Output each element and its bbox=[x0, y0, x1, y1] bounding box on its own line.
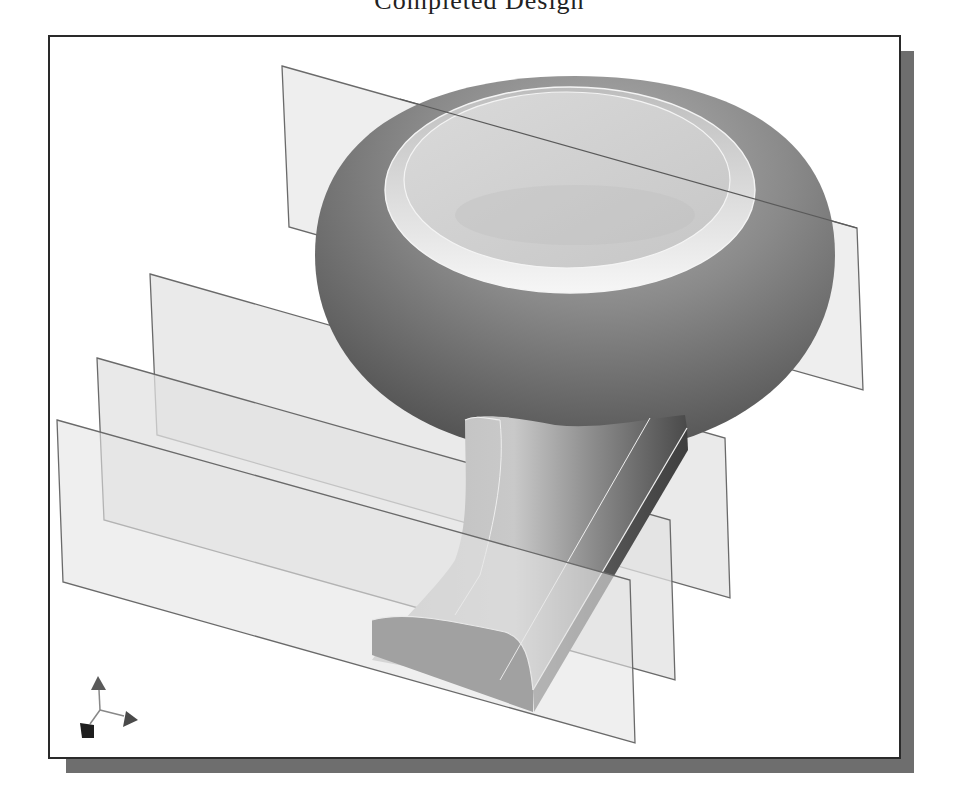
x-axis-icon bbox=[123, 711, 138, 727]
model-viewport[interactable] bbox=[48, 35, 901, 759]
model-canvas[interactable] bbox=[48, 35, 901, 759]
z-axis-icon bbox=[80, 723, 94, 738]
y-axis-icon bbox=[91, 676, 106, 690]
axis-triad bbox=[80, 676, 138, 738]
figure-caption: Completed Design bbox=[0, 0, 959, 16]
bowl[interactable] bbox=[315, 76, 835, 455]
